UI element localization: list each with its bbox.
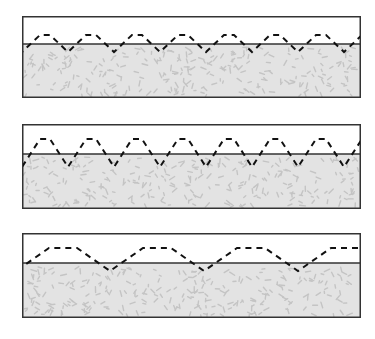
panel-top bbox=[22, 16, 361, 98]
panel-bottom bbox=[22, 233, 361, 318]
panel-middle bbox=[22, 124, 361, 209]
